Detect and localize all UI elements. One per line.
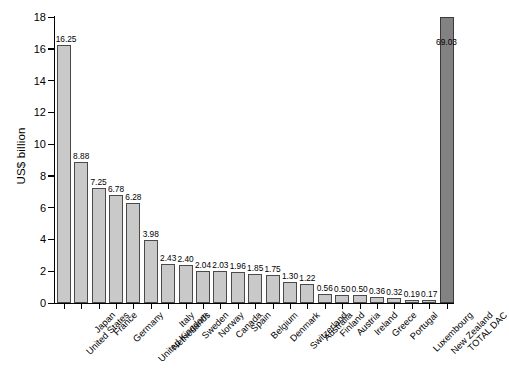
bar-value-label: 6.78 <box>108 185 124 194</box>
bar[interactable] <box>213 271 227 303</box>
bar[interactable] <box>126 203 140 303</box>
bar-value-label: 2.43 <box>160 254 176 263</box>
bar[interactable] <box>283 282 297 303</box>
bar[interactable] <box>179 265 193 303</box>
bar-value-label: 0.50 <box>334 285 350 294</box>
bar[interactable] <box>161 264 175 303</box>
bar-value-label: 8.88 <box>73 152 89 161</box>
bar[interactable] <box>74 162 88 303</box>
bar-value-label: 2.40 <box>178 255 194 264</box>
bar[interactable] <box>405 300 419 303</box>
bar[interactable] <box>266 275 280 303</box>
bar[interactable] <box>92 188 106 303</box>
bar-value-label: 0.50 <box>352 285 368 294</box>
bar[interactable] <box>387 298 401 303</box>
bar[interactable] <box>440 17 454 303</box>
bar[interactable] <box>318 294 332 303</box>
bar-value-label: 7.25 <box>91 178 107 187</box>
bar-value-label: 1.96 <box>230 262 246 271</box>
bar-value-label: 1.75 <box>265 265 281 274</box>
bar[interactable] <box>422 300 436 303</box>
bar[interactable] <box>353 295 367 303</box>
bar-value-label: 2.04 <box>195 261 211 270</box>
bar-value-label: 6.28 <box>125 193 141 202</box>
bar[interactable] <box>300 284 314 303</box>
bar-value-label: 1.85 <box>247 264 263 273</box>
bar-value-label: 2.03 <box>212 261 228 270</box>
bar[interactable] <box>196 271 210 303</box>
bar-value-label: 0.56 <box>317 284 333 293</box>
bar-value-label: 0.17 <box>421 290 437 299</box>
bar[interactable] <box>144 240 158 303</box>
bar-value-label: 3.98 <box>143 230 159 239</box>
bar[interactable] <box>57 45 71 303</box>
bar[interactable] <box>248 274 262 303</box>
bar-value-label: 1.30 <box>282 272 298 281</box>
bar-value-label: 0.36 <box>369 287 385 296</box>
bar-value-label: 69.03 <box>431 38 463 47</box>
bar[interactable] <box>370 297 384 303</box>
bar-value-label: 16.25 <box>56 35 77 44</box>
bar-value-label: 0.19 <box>404 290 420 299</box>
bar-value-label: 0.32 <box>386 288 402 297</box>
bar-value-label: 1.22 <box>299 274 315 283</box>
bar[interactable] <box>231 272 245 303</box>
bar[interactable] <box>109 195 123 303</box>
bar[interactable] <box>335 295 349 303</box>
